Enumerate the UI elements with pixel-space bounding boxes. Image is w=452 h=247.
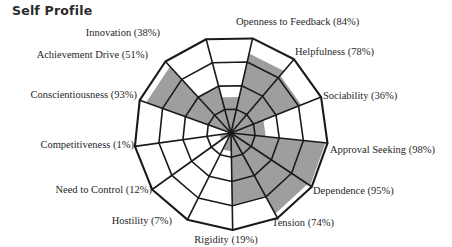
axis-label-need-to-control: Need to Control (12%) (55, 185, 152, 196)
grid-spoke-8 (152, 133, 231, 189)
axis-label-sociability: Sociability (36%) (323, 91, 397, 102)
radar-chart: Innovation (38%)Openness to Feedback (84… (0, 0, 452, 247)
axis-label-innovation: Innovation (38%) (86, 28, 160, 39)
axis-label-conscientiousness: Conscientiousness (93%) (31, 90, 137, 101)
axis-label-openness-to-feedback: Openness to Feedback (84%) (236, 17, 359, 28)
axis-label-rigidity: Rigidity (19%) (194, 235, 257, 246)
axis-label-tension: Tension (74%) (272, 218, 334, 229)
axis-label-approval-seeking: Approval Seeking (98%) (330, 145, 435, 156)
grid-spoke-7 (187, 133, 231, 220)
axis-label-hostility: Hostility (7%) (112, 216, 172, 227)
axis-label-helpfulness: Helpfulness (78%) (295, 47, 374, 58)
radar-chart-svg (0, 0, 452, 247)
axis-label-achievement-drive: Achievement Drive (51%) (37, 50, 148, 61)
axis-label-competitiveness: Competitiveness (1%) (40, 140, 134, 151)
axis-label-dependence: Dependence (95%) (313, 186, 394, 197)
